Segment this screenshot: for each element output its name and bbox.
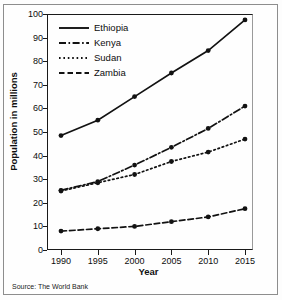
y-tick-label: 30	[33, 174, 43, 184]
y-tick-label: 50	[33, 127, 43, 137]
legend-item-kenya[interactable]: Kenya	[59, 35, 163, 50]
legend-label: Sudan	[94, 52, 121, 63]
legend-label: Zambia	[94, 67, 126, 78]
data-point-zambia	[132, 224, 137, 229]
data-point-ethiopia	[59, 133, 64, 138]
y-tick-label: 90	[33, 33, 43, 43]
x-axis-label: Year	[47, 266, 250, 277]
x-tick-mark	[245, 250, 246, 255]
data-point-zambia	[95, 226, 100, 231]
x-tick-mark	[135, 250, 136, 255]
data-point-ethiopia	[95, 118, 100, 123]
chart-legend: EthiopiaKenyaSudanZambia	[59, 20, 163, 80]
legend-item-ethiopia[interactable]: Ethiopia	[59, 20, 163, 35]
x-tick-mark	[208, 250, 209, 255]
data-point-kenya	[206, 126, 211, 131]
chart-figure: Population in millions Year Source: The …	[0, 0, 282, 300]
data-point-sudan	[169, 159, 174, 164]
y-tick-label: 80	[33, 56, 43, 66]
data-point-ethiopia	[243, 18, 248, 23]
data-point-ethiopia	[132, 94, 137, 99]
x-tick-label: 2015	[235, 256, 255, 266]
legend-line-sample-icon	[59, 53, 89, 63]
source-note: Source: The World Bank	[12, 283, 88, 290]
data-point-zambia	[206, 215, 211, 220]
data-point-kenya	[132, 163, 137, 168]
x-tick-mark	[171, 250, 172, 255]
y-tick-label: 70	[33, 80, 43, 90]
legend-item-zambia[interactable]: Zambia	[59, 65, 163, 80]
data-point-sudan	[243, 137, 248, 142]
legend-item-sudan[interactable]: Sudan	[59, 50, 163, 65]
legend-label: Kenya	[94, 37, 121, 48]
y-tick-label: 60	[33, 103, 43, 113]
x-tick-label: 2010	[198, 256, 218, 266]
y-axis-label: Population in millions	[8, 57, 19, 187]
legend-label: Ethiopia	[94, 22, 128, 33]
legend-line-sample-icon	[59, 68, 89, 78]
series-line-zambia	[61, 209, 245, 231]
data-point-sudan	[59, 189, 64, 194]
x-tick-label: 2005	[161, 256, 181, 266]
data-point-ethiopia	[206, 48, 211, 53]
x-tick-label: 1990	[51, 256, 71, 266]
data-point-kenya	[243, 104, 248, 109]
data-point-sudan	[206, 150, 211, 155]
data-point-sudan	[95, 180, 100, 185]
data-point-zambia	[243, 206, 248, 211]
y-tick-label: 100	[28, 9, 43, 19]
data-point-zambia	[59, 229, 64, 234]
data-point-sudan	[132, 172, 137, 177]
x-tick-mark	[98, 250, 99, 255]
legend-line-sample-icon	[59, 23, 89, 33]
y-tick-mark	[43, 250, 47, 251]
data-point-zambia	[169, 219, 174, 224]
y-tick-label: 10	[33, 221, 43, 231]
y-tick-label: 40	[33, 151, 43, 161]
legend-line-sample-icon	[59, 38, 89, 48]
data-point-kenya	[169, 145, 174, 150]
x-tick-mark	[61, 250, 62, 255]
x-tick-label: 2000	[125, 256, 145, 266]
x-tick-label: 1995	[88, 256, 108, 266]
data-point-ethiopia	[169, 71, 174, 76]
y-tick-label: 20	[33, 198, 43, 208]
plot-area: 0102030405060708090100 19901995200020052…	[47, 14, 253, 250]
